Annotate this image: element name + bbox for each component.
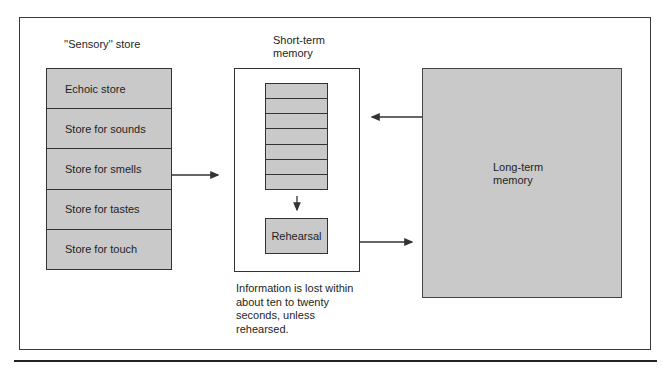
bottom-rule bbox=[14, 360, 657, 362]
arrows-layer bbox=[0, 0, 671, 370]
